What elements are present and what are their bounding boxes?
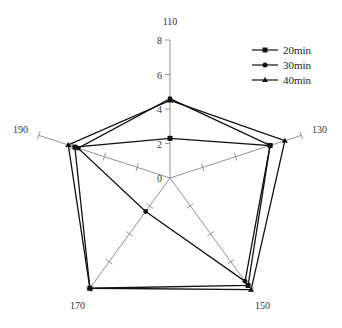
radial-tick-label: 8 bbox=[157, 35, 162, 46]
axis-label: 150 bbox=[255, 300, 270, 311]
radial-tick-label: 0 bbox=[157, 173, 162, 184]
axis-label: 130 bbox=[312, 124, 327, 135]
legend-item-40min: 40min bbox=[252, 74, 312, 86]
axis-label: 170 bbox=[70, 300, 85, 311]
axis-label: 110 bbox=[163, 16, 178, 27]
legend-label: 20min bbox=[283, 44, 312, 56]
radar-chart: 11013015017019002468 20min 30min 40min bbox=[0, 0, 342, 328]
series-20min bbox=[75, 138, 270, 288]
radar-series bbox=[65, 96, 288, 291]
legend-label: 30min bbox=[283, 59, 312, 71]
radial-tick-label: 6 bbox=[157, 70, 162, 81]
legend-label: 40min bbox=[283, 74, 312, 86]
radial-tick-label: 4 bbox=[157, 104, 162, 115]
axis-label: 190 bbox=[13, 124, 28, 135]
legend-item-20min: 20min bbox=[252, 44, 312, 56]
radial-tick-label: 2 bbox=[157, 139, 162, 150]
legend-item-30min: 30min bbox=[252, 59, 312, 71]
legend: 20min 30min 40min bbox=[252, 44, 312, 86]
